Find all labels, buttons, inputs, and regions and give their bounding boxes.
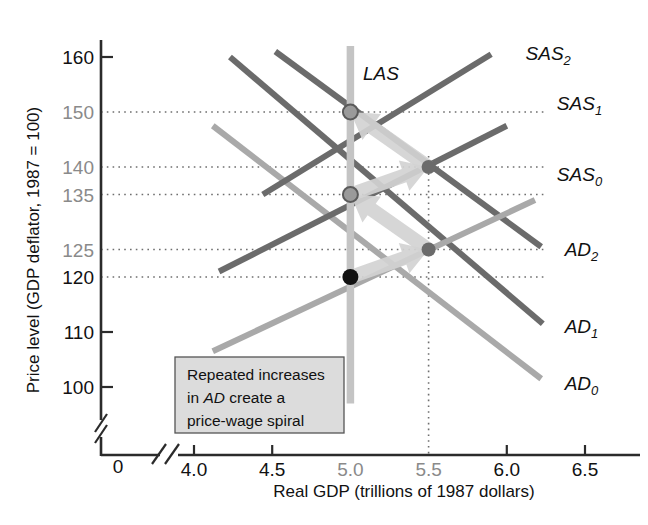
marker-long-run-equilibrium-1 [343, 187, 358, 202]
marker-short-run-equilibrium-2 [422, 160, 436, 174]
curve-label-subscript: 0 [595, 174, 603, 189]
marker-short-run-equilibrium-1 [422, 243, 436, 257]
origin-label: 0 [113, 456, 124, 477]
x-tick-label-4.5: 4.5 [259, 459, 285, 480]
x-tick-label-6.0: 6.0 [494, 459, 520, 480]
curve-label-base: SAS [557, 164, 595, 185]
price-wage-spiral-figure: 160150140135125120110100 4.04.55.05.56.0… [0, 0, 648, 525]
curve-label-subscript: 0 [591, 383, 599, 398]
marker-long-run-equilibrium-2 [343, 105, 358, 120]
annotation-line-2: in AD create a [187, 389, 286, 406]
curve-label-base: AD [564, 373, 592, 394]
curve-label-subscript: 1 [591, 326, 598, 341]
curve-label-base: AD [564, 316, 592, 337]
y-tick-label-100: 100 [62, 377, 94, 398]
x-tick-label-5.5: 5.5 [415, 459, 441, 480]
y-tick-label-110: 110 [64, 322, 94, 343]
annotation-line-1: Repeated increases [187, 366, 325, 383]
curve-label-subscript: 2 [563, 53, 572, 68]
curve-label-subscript: 1 [595, 103, 602, 118]
annotation-line-2-emphasis: AD [202, 389, 225, 406]
y-tick-label-125: 125 [62, 240, 94, 261]
annotation-line-3: price-wage spiral [187, 412, 304, 429]
ad-as-chart: 160150140135125120110100 4.04.55.05.56.0… [0, 0, 648, 525]
y-tick-label-160: 160 [62, 47, 94, 68]
chart-background [0, 0, 648, 525]
y-tick-label-120: 120 [62, 267, 94, 288]
annotation-line-2-suffix: create a [225, 389, 286, 406]
x-axis-title: Real GDP (trillions of 1987 dollars) [273, 482, 534, 501]
curve-label-subscript: 2 [590, 249, 599, 264]
annotation-box: Repeated increases in AD create a price-… [175, 357, 344, 433]
y-axis-title: Price level (GDP deflator, 1987 = 100) [24, 107, 43, 394]
x-tick-label-6.5: 6.5 [572, 459, 598, 480]
x-tick-label-5.0: 5.0 [337, 459, 363, 480]
y-tick-label-140: 140 [62, 157, 94, 178]
curve-label-base: SAS [526, 43, 564, 64]
curve-label-base: AD [564, 239, 592, 260]
x-tick-label-4.0: 4.0 [181, 459, 207, 480]
curve-label-las: LAS [363, 63, 399, 84]
marker-initial-equilibrium [342, 269, 358, 285]
annotation-line-2-prefix: in [187, 389, 203, 406]
y-tick-label-135: 135 [62, 185, 94, 206]
curve-label-base: LAS [363, 63, 399, 84]
curve-label-base: SAS [557, 93, 595, 114]
y-tick-label-150: 150 [62, 102, 94, 123]
